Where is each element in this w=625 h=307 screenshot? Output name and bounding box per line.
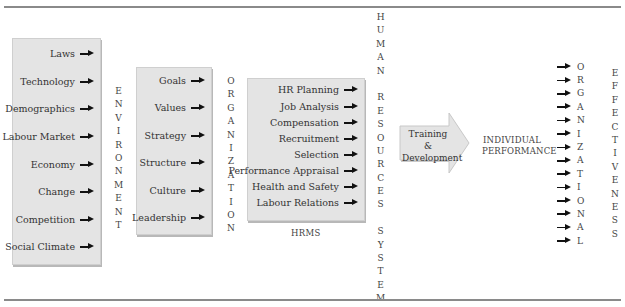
- organizational-letter: N: [557, 114, 585, 127]
- organizational-letter: I: [557, 127, 585, 140]
- organizational-letter: I: [557, 181, 585, 194]
- arrow-right-icon: [191, 159, 205, 166]
- individual-performance-label: INDIVIDUAL PERFORMANCE: [482, 135, 542, 157]
- arrow-right-icon: [557, 184, 571, 191]
- arrow-right-icon: [191, 214, 205, 221]
- organizational-letter: A: [557, 154, 585, 167]
- arrow-right-icon: [191, 77, 205, 84]
- arrow-right-icon: [80, 216, 94, 223]
- arrow-right-icon: [344, 183, 358, 190]
- arrow-right-icon: [191, 132, 205, 139]
- organization-box: Goals Values Strategy Structure Culture …: [136, 67, 212, 235]
- arrow-right-icon: [80, 188, 94, 195]
- organizational-letter: O: [557, 194, 585, 207]
- hrms-item: Labour Relations: [257, 197, 359, 208]
- arrow-right-icon: [80, 105, 94, 112]
- environment-box: Laws Technology Demographics Labour Mark…: [12, 38, 101, 265]
- hrms-box: HR Planning Job Analysis Compensation Re…: [247, 78, 365, 221]
- hrms-caption: HRMS: [291, 228, 321, 238]
- environment-item: Social Climate: [5, 241, 94, 252]
- arrow-right-icon: [344, 103, 358, 110]
- organizational-letter: T: [557, 167, 585, 180]
- arrow-right-icon: [557, 157, 571, 164]
- hrms-item: Job Analysis: [281, 101, 358, 112]
- bottom-rule: [4, 299, 621, 301]
- organizational-letter: N: [557, 207, 585, 220]
- organizational-letter: A: [557, 100, 585, 113]
- arrow-right-icon: [557, 90, 571, 97]
- arrow-right-icon: [557, 130, 571, 137]
- organizational-letter: L: [557, 234, 585, 247]
- arrow-right-icon: [557, 224, 571, 231]
- training-development-label: Training & Development: [402, 128, 454, 164]
- human-resources-system-vertical-label: H U M A N R E S O U R C E S S Y S T E M: [376, 11, 385, 306]
- hrms-item: HR Planning: [278, 84, 358, 95]
- organization-item: Culture: [149, 185, 205, 196]
- environment-item: Economy: [31, 159, 94, 170]
- arrow-right-icon: [80, 161, 94, 168]
- organizational-letter: G: [557, 87, 585, 100]
- arrow-right-icon: [557, 170, 571, 177]
- arrow-right-icon: [80, 133, 94, 140]
- organizational-letter: R: [557, 73, 585, 86]
- arrow-right-icon: [344, 167, 358, 174]
- arrow-right-icon: [557, 210, 571, 217]
- environment-item: Labour Market: [2, 131, 94, 142]
- organizational-letter: A: [557, 221, 585, 234]
- arrow-right-icon: [344, 86, 358, 93]
- environment-item: Demographics: [5, 103, 94, 114]
- arrow-right-icon: [557, 77, 571, 84]
- arrow-right-icon: [191, 187, 205, 194]
- top-rule: [4, 6, 621, 8]
- organization-item: Structure: [140, 157, 205, 168]
- organizational-letter: Z: [557, 140, 585, 153]
- environment-vertical-label: E N V I R O N M E N T: [114, 85, 123, 232]
- arrow-right-icon: [557, 63, 571, 70]
- hrms-item: Recruitment: [279, 133, 358, 144]
- organization-item: Values: [155, 102, 205, 113]
- environment-item: Technology: [20, 76, 94, 87]
- hrms-item: Compensation: [270, 117, 358, 128]
- arrow-right-icon: [557, 144, 571, 151]
- effectiveness-vertical-label: E F F E C T I V E N E S S: [611, 67, 619, 241]
- arrow-right-icon: [191, 104, 205, 111]
- organizational-letter: O: [557, 60, 585, 73]
- environment-item: Competition: [16, 214, 94, 225]
- arrow-right-icon: [80, 50, 94, 57]
- arrow-right-icon: [80, 78, 94, 85]
- environment-item: Change: [38, 186, 94, 197]
- organization-item: Strategy: [145, 130, 205, 141]
- arrow-right-icon: [344, 119, 358, 126]
- arrow-right-icon: [557, 197, 571, 204]
- organization-item: Goals: [159, 75, 205, 86]
- arrow-right-icon: [344, 135, 358, 142]
- hrms-item: Performance Appraisal: [228, 165, 358, 176]
- arrow-right-icon: [557, 237, 571, 244]
- hrms-item: Health and Safety: [252, 181, 358, 192]
- arrow-right-icon: [557, 117, 571, 124]
- arrow-right-icon: [344, 151, 358, 158]
- organization-vertical-label: O R G A N I Z A T I O N: [227, 75, 235, 236]
- arrow-right-icon: [344, 199, 358, 206]
- arrow-right-icon: [80, 243, 94, 250]
- environment-item: Laws: [50, 48, 94, 59]
- hrms-item: Selection: [294, 149, 358, 160]
- organization-item: Leadership: [132, 212, 205, 223]
- arrow-right-icon: [557, 103, 571, 110]
- organizational-vertical-label: O R G A N I Z A T I O N A L: [557, 60, 585, 247]
